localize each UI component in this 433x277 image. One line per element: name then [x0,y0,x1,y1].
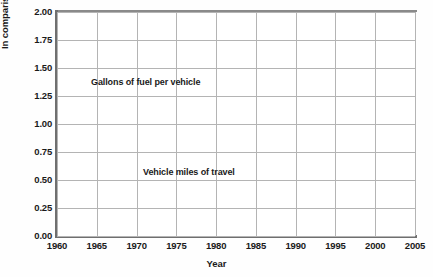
series-label-gallons-of-fuel-per-vehicle: Gallons of fuel per vehicle [91,77,200,87]
y-tick-label: 2.00 [6,6,52,17]
chart-figure: 2.001.751.501.251.000.750.500.250.00 196… [0,0,433,277]
x-tick-label: 1985 [246,240,266,251]
gridline-horizontal [57,180,415,181]
plot-area [57,12,415,236]
gridline-horizontal [57,152,415,153]
gridline-horizontal [57,236,415,237]
gridline-horizontal [57,124,415,125]
x-tick-label: 2000 [365,240,385,251]
gridline-horizontal [57,12,415,13]
y-tick-label: 1.75 [6,34,52,45]
y-tick-label: 1.00 [6,118,52,129]
x-tick-label: 1970 [126,240,146,251]
gridline-horizontal [57,68,415,69]
series-label-vehicle-miles-of-travel: Vehicle miles of travel [143,167,235,177]
x-tick-label: 1980 [206,240,226,251]
gridline-horizontal [57,96,415,97]
x-tick-label: 1975 [166,240,186,251]
x-axis-title: Year [0,258,433,269]
y-axis-title: In comparison to 1987 data [0,0,10,49]
y-tick-label: 0.50 [6,174,52,185]
x-tick-label: 1995 [325,240,345,251]
gridline-horizontal [57,40,415,41]
y-tick-label: 1.25 [6,90,52,101]
y-tick-label: 0.25 [6,202,52,213]
y-tick-label: 1.50 [6,62,52,73]
y-tick-label: 0.75 [6,146,52,157]
x-tick-label: 1990 [285,240,305,251]
x-tick-label: 2005 [405,240,425,251]
y-tick-label: 0.00 [6,230,52,241]
gridline-vertical [415,12,416,236]
x-tick-label: 1960 [47,240,67,251]
x-tick-label: 1965 [87,240,107,251]
gridline-horizontal [57,208,415,209]
